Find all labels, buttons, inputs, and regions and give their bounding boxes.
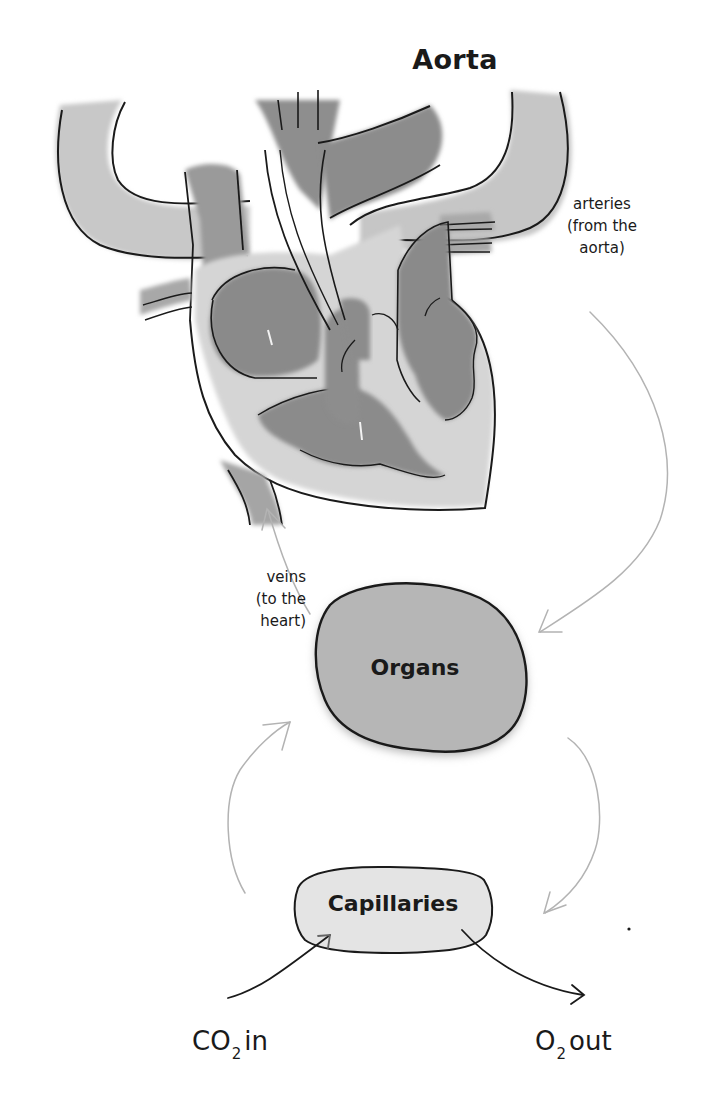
co2-in-label: CO2in xyxy=(192,1026,312,1057)
aorta-title: Aorta xyxy=(405,44,505,76)
arteries-label-line-3: aorta) xyxy=(542,237,662,259)
arteries-arrow xyxy=(540,312,667,632)
organs-to-capillaries-arrow xyxy=(545,738,600,913)
co2-suffix: in xyxy=(244,1026,268,1056)
veins-label-line-1: veins xyxy=(196,566,306,588)
o2-suffix: out xyxy=(569,1026,612,1056)
circulation-diagram: Aorta arteries (from the aorta) veins (t… xyxy=(0,0,708,1115)
veins-label: veins (to the heart) xyxy=(196,566,306,632)
capillaries-to-organs-arrow xyxy=(228,722,290,893)
arteries-label: arteries (from the aorta) xyxy=(542,193,662,259)
diagram-artwork xyxy=(0,0,708,1115)
veins-label-line-3: heart) xyxy=(196,610,306,632)
heart-illustration xyxy=(55,90,571,525)
stray-dot xyxy=(627,927,630,930)
arteries-label-line-2: (from the xyxy=(542,215,662,237)
organs-label: Organs xyxy=(345,655,485,681)
veins-label-line-2: (to the xyxy=(196,588,306,610)
o2-prefix: O xyxy=(535,1026,555,1056)
o2-subscript: 2 xyxy=(556,1045,566,1063)
co2-subscript: 2 xyxy=(232,1045,242,1063)
arteries-label-line-1: arteries xyxy=(542,193,662,215)
o2-out-label: O2out xyxy=(535,1026,655,1057)
co2-prefix: CO xyxy=(192,1026,231,1056)
capillaries-label: Capillaries xyxy=(313,891,473,917)
